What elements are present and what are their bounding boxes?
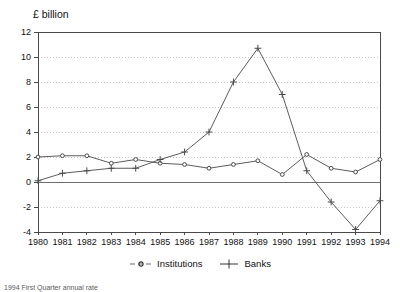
svg-text:6: 6	[26, 102, 31, 112]
svg-text:1992: 1992	[321, 237, 341, 247]
data-series	[35, 45, 384, 233]
legend-label-banks: Banks	[245, 258, 271, 269]
svg-text:4: 4	[26, 127, 31, 137]
legend-item-institutions[interactable]: Institutions	[129, 258, 202, 269]
svg-text:-2: -2	[23, 202, 31, 212]
svg-text:1989: 1989	[248, 237, 268, 247]
svg-text:8: 8	[26, 77, 31, 87]
legend-marker-circle-icon	[129, 259, 153, 269]
x-axis-tick-labels: 1980198119821983198419851986198719881989…	[28, 237, 390, 247]
svg-text:1986: 1986	[175, 237, 195, 247]
svg-text:-4: -4	[23, 227, 31, 237]
svg-text:1988: 1988	[223, 237, 243, 247]
svg-text:1991: 1991	[297, 237, 317, 247]
chart-figure: £ billion -4-2024681012 1980198119821983…	[0, 0, 400, 292]
gridlines	[38, 32, 380, 207]
legend-item-banks[interactable]: Banks	[217, 258, 271, 269]
chart-plot-area: -4-2024681012 19801981198219831984198519…	[0, 0, 400, 292]
svg-text:10: 10	[21, 52, 31, 62]
chart-legend: Institutions Banks	[0, 258, 400, 269]
chart-footnote: 1994 First Quarter annual rate	[4, 283, 98, 292]
svg-text:1985: 1985	[150, 237, 170, 247]
legend-label-institutions: Institutions	[157, 258, 202, 269]
svg-text:1983: 1983	[101, 237, 121, 247]
svg-text:1987: 1987	[199, 237, 219, 247]
svg-text:1993: 1993	[346, 237, 366, 247]
svg-text:1994: 1994	[370, 237, 390, 247]
svg-text:1982: 1982	[77, 237, 97, 247]
legend-marker-plus-icon	[217, 259, 241, 269]
svg-text:12: 12	[21, 27, 31, 37]
svg-text:1984: 1984	[126, 237, 146, 247]
y-axis-tick-labels: -4-2024681012	[21, 27, 31, 237]
svg-text:1980: 1980	[28, 237, 48, 247]
svg-text:0: 0	[26, 177, 31, 187]
svg-text:1990: 1990	[272, 237, 292, 247]
svg-text:1981: 1981	[52, 237, 72, 247]
svg-text:2: 2	[26, 152, 31, 162]
